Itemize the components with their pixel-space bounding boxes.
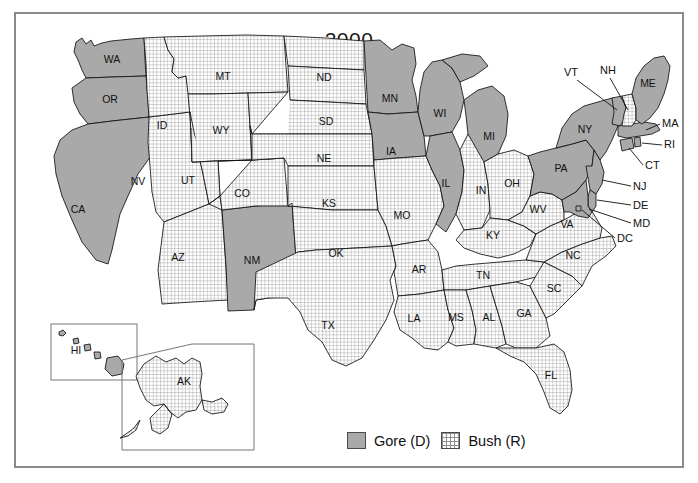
label-NE: NE [317, 152, 332, 164]
state-TX[interactable] [254, 246, 396, 366]
label-WA: WA [104, 53, 121, 65]
label-KS: KS [322, 197, 336, 209]
label-AL: AL [483, 311, 496, 323]
label-PA: PA [554, 162, 567, 174]
label-NH: NH [600, 64, 616, 76]
label-ND: ND [316, 71, 332, 83]
label-CA: CA [71, 203, 86, 215]
label-DE: DE [633, 199, 648, 211]
state-RI[interactable] [634, 137, 641, 147]
label-LA: LA [408, 312, 421, 324]
label-ME: ME [640, 77, 656, 89]
label-NV: NV [131, 175, 146, 187]
state-FL[interactable] [496, 344, 572, 414]
states-layer [51, 35, 670, 450]
label-MA: MA [662, 117, 679, 129]
label-CT: CT [645, 159, 660, 171]
label-IN: IN [476, 184, 487, 196]
label-UT: UT [181, 174, 196, 186]
state-LA[interactable] [394, 290, 454, 350]
state-HI[interactable] [59, 330, 124, 376]
label-MO: MO [394, 209, 411, 221]
label-HI: HI [71, 344, 82, 356]
legend: Gore (D) Bush (R) [347, 432, 526, 449]
label-RI: RI [664, 138, 675, 150]
label-NY: NY [578, 123, 593, 135]
legend-label-gore: Gore (D) [374, 433, 430, 449]
legend-label-bush: Bush (R) [468, 433, 525, 449]
state-AK[interactable] [120, 356, 228, 438]
legend-item-bush[interactable]: Bush (R) [441, 432, 525, 449]
label-MS: MS [448, 311, 464, 323]
label-WV: WV [530, 203, 547, 215]
label-WY: WY [213, 124, 230, 136]
label-MI: MI [483, 130, 495, 142]
state-DC[interactable] [576, 206, 581, 211]
label-TN: TN [476, 269, 490, 281]
label-NM: NM [244, 254, 260, 266]
state-ME[interactable] [632, 56, 670, 124]
label-IL: IL [442, 177, 451, 189]
state-ND[interactable] [284, 36, 364, 70]
label-NC: NC [565, 249, 581, 261]
label-OK: OK [328, 247, 343, 259]
label-OR: OR [102, 93, 118, 105]
state-CA[interactable] [54, 117, 156, 264]
state-IA[interactable] [368, 112, 426, 160]
label-VT: VT [564, 66, 578, 78]
us-electoral-map: WA OR CA NV ID MT WY UT AZ NM CO ND SD N… [16, 14, 686, 470]
label-DC: DC [617, 232, 633, 244]
map-svg: WA OR CA NV ID MT WY UT AZ NM CO ND SD N… [16, 14, 686, 470]
label-WI: WI [434, 107, 447, 119]
label-NJ: NJ [633, 180, 646, 192]
label-AZ: AZ [171, 251, 185, 263]
label-ID: ID [157, 119, 168, 131]
figure-frame: 2000 [14, 12, 684, 468]
legend-item-gore[interactable]: Gore (D) [347, 432, 430, 449]
map-figure: 2000 [0, 0, 698, 483]
state-CT[interactable] [620, 138, 634, 151]
label-MN: MN [382, 92, 398, 104]
label-MD: MD [633, 217, 650, 229]
label-TX: TX [321, 319, 334, 331]
label-OH: OH [504, 177, 520, 189]
label-KY: KY [486, 229, 500, 241]
legend-swatch-gore [347, 432, 366, 449]
legend-swatch-bush [441, 432, 460, 449]
label-AK: AK [177, 375, 191, 387]
label-GA: GA [516, 307, 531, 319]
label-FL: FL [545, 369, 557, 381]
label-SD: SD [319, 115, 334, 127]
label-CO: CO [234, 187, 250, 199]
label-VA: VA [560, 218, 573, 230]
label-SC: SC [547, 282, 562, 294]
label-AR: AR [412, 263, 427, 275]
label-IA: IA [386, 145, 396, 157]
label-MT: MT [215, 70, 231, 82]
